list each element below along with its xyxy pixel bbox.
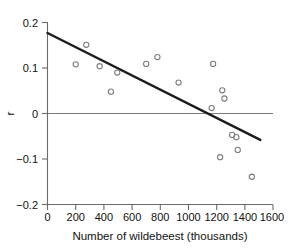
y-tick-label-0.2: 0.2: [23, 17, 38, 29]
y-tick-label-0: 0: [32, 108, 38, 120]
data-point: [211, 61, 216, 66]
data-point: [115, 70, 120, 75]
data-point: [97, 64, 102, 69]
y-axis-title: r: [4, 111, 16, 115]
y-tick-label-neg0.1: −0.1: [16, 153, 38, 165]
data-point: [176, 80, 181, 85]
data-point: [222, 96, 227, 101]
regression-fit-line: [48, 33, 261, 140]
x-tick-label-1600: 1600: [260, 211, 284, 223]
data-point: [249, 174, 254, 179]
plot-canvas: 0.2 0.1 0 −0.1 −0.2 0 200 400 600 800 10…: [0, 0, 296, 248]
data-point: [234, 135, 239, 140]
data-point: [235, 147, 240, 152]
x-tick-label-1400: 1400: [233, 211, 257, 223]
x-tick-label-200: 200: [67, 211, 85, 223]
x-tick-label-600: 600: [123, 211, 141, 223]
data-points-group: [73, 42, 254, 179]
data-point: [155, 54, 160, 59]
data-point: [220, 88, 225, 93]
data-point: [108, 89, 113, 94]
x-tick-marks: [48, 205, 274, 210]
x-tick-label-1200: 1200: [204, 211, 228, 223]
data-point: [73, 62, 78, 67]
x-tick-label-400: 400: [95, 211, 113, 223]
data-point: [84, 42, 89, 47]
data-point: [209, 105, 214, 110]
x-tick-labels: 0 200 400 600 800 1000 1200 1400 1600: [44, 211, 284, 223]
x-axis-title: Number of wildebeest (thousands): [72, 230, 247, 242]
scatter-plot-figure: 0.2 0.1 0 −0.1 −0.2 0 200 400 600 800 10…: [0, 0, 296, 248]
x-tick-label-1000: 1000: [176, 211, 200, 223]
data-point: [218, 155, 223, 160]
x-tick-label-0: 0: [44, 211, 50, 223]
data-point: [144, 61, 149, 66]
y-tick-label-neg0.2: −0.2: [16, 199, 38, 211]
y-tick-labels: 0.2 0.1 0 −0.1 −0.2: [16, 17, 38, 211]
y-tick-marks: [42, 23, 47, 205]
y-tick-label-0.1: 0.1: [23, 62, 38, 74]
x-tick-label-800: 800: [151, 211, 169, 223]
